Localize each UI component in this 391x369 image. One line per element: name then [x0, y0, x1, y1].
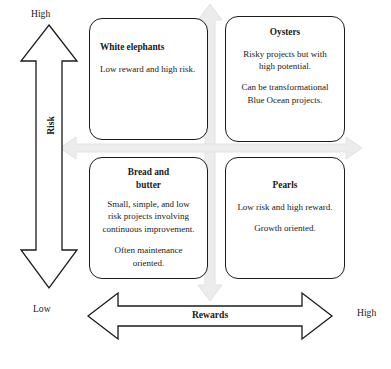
risk-axis-arrow-icon [21, 25, 77, 288]
risk-rewards-matrix: High Low Risk Rewards High White elephan… [0, 0, 391, 369]
rewards-axis-name-label: Rewards [96, 309, 324, 320]
quadrant-oysters-paragraph-2: Can be transformational Blue Ocean proje… [236, 81, 334, 106]
risk-axis-high-label: High [31, 8, 50, 20]
risk-axis-name-label: Risk [45, 106, 56, 146]
quadrant-oysters[interactable]: Oysters Risky projects but with high pot… [225, 16, 345, 142]
quadrant-bread-and-butter[interactable]: Bread and butter Small, simple, and low … [89, 157, 208, 279]
rewards-axis-high-label: High [357, 307, 376, 319]
quadrant-pearls-paragraph-1: Low risk and high reward. [236, 201, 334, 213]
quadrant-pearls-title: Pearls [236, 179, 334, 192]
quadrant-white-elephants-paragraph-1: Low reward and high risk. [100, 63, 197, 75]
quadrant-bread-and-butter-paragraph-1: Small, simple, and low risk projects inv… [100, 198, 197, 235]
quadrant-oysters-title: Oysters [236, 26, 334, 39]
quadrant-bread-and-butter-paragraph-2: Often maintenance oriented. [100, 244, 197, 269]
quadrant-pearls-paragraph-2: Growth oriented. [236, 222, 334, 234]
quadrant-bread-and-butter-title: Bread and butter [100, 166, 197, 191]
quadrant-white-elephants-title: White elephants [100, 41, 197, 54]
quadrant-white-elephants[interactable]: White elephants Low reward and high risk… [89, 18, 208, 140]
risk-axis-low-label: Low [33, 303, 51, 315]
quadrant-oysters-paragraph-1: Risky projects but with high potential. [236, 48, 334, 73]
quadrant-pearls[interactable]: Pearls Low risk and high reward. Growth … [225, 157, 345, 279]
